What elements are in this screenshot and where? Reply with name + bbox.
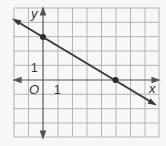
y-tick-label-1: 1: [31, 61, 38, 75]
x-tick-label-1: 1: [54, 83, 61, 97]
y-intercept-point: [40, 34, 46, 40]
x-axis-left-arrow-icon: [14, 78, 21, 83]
x-intercept-point: [113, 77, 119, 83]
x-axis-label: x: [148, 81, 156, 96]
coordinate-plane: y x O 1 1: [0, 0, 166, 146]
y-axis-up-arrow-icon: [41, 8, 46, 15]
origin-label: O: [29, 82, 39, 97]
